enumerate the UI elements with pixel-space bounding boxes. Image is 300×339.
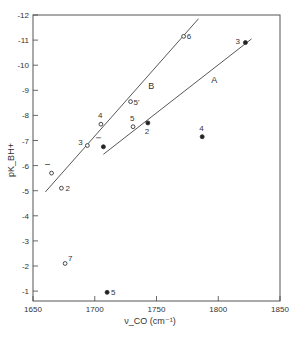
chart: 16501700175018001850-1-2-3-4-5-6-7-8-9-1… [0, 0, 300, 339]
regression-lines: BA [45, 19, 251, 192]
y-tick-label: -11 [18, 36, 30, 45]
x-axis-label: ν_CO (cm⁻¹) [124, 316, 176, 326]
open-point [182, 34, 186, 38]
filled-point [243, 41, 247, 45]
y-tick-label: -3 [22, 237, 30, 246]
open-point [50, 171, 54, 175]
filled-point [101, 145, 105, 149]
point-label: 3 [78, 138, 83, 147]
point-label: 4 [199, 124, 204, 133]
x-tick-label: 1750 [148, 305, 166, 314]
open-point [131, 125, 135, 129]
line-B [45, 19, 198, 192]
filled-point [146, 121, 150, 125]
point-label: 4 [98, 111, 103, 120]
x-tick-label: 1650 [24, 305, 42, 314]
filled-point [105, 290, 109, 294]
point-label: 6 [187, 32, 192, 41]
y-tick-label: -10 [17, 61, 29, 70]
y-tick-label: -12 [17, 11, 29, 20]
line-label-B: B [148, 81, 154, 91]
open-point [63, 262, 67, 266]
open-point [85, 144, 89, 148]
y-tick-label: -8 [22, 111, 30, 120]
point-label: 2 [145, 127, 150, 136]
open-point [129, 100, 133, 104]
point-label: 3 [235, 37, 240, 46]
open-point [60, 186, 64, 190]
point-label: 7 [68, 254, 73, 263]
y-tick-label: -9 [22, 86, 30, 95]
filled-point [200, 135, 204, 139]
x-tick-label: 1700 [86, 305, 104, 314]
line-label-A: A [211, 75, 217, 85]
axis-ticks: 16501700175018001850-1-2-3-4-5-6-7-8-9-1… [17, 11, 289, 314]
y-tick-label: -2 [22, 262, 30, 271]
y-axis-label: pK_BH+ [6, 143, 16, 177]
y-tick-label: -5 [22, 187, 30, 196]
open-point [99, 122, 103, 126]
point-label: 5 [130, 114, 135, 123]
y-tick-label: -4 [22, 212, 30, 221]
point-label: 5 [111, 288, 116, 297]
x-tick-label: 1800 [209, 305, 227, 314]
y-tick-label: -7 [22, 137, 30, 146]
point-label: 2 [65, 184, 70, 193]
x-tick-label: 1850 [271, 305, 289, 314]
y-tick-label: -6 [22, 162, 30, 171]
line-A [103, 39, 251, 154]
point-label: l [94, 137, 103, 139]
point-label: l [43, 163, 52, 165]
y-tick-label: -1 [22, 287, 30, 296]
data-points: l2345'567l2345 [43, 32, 248, 297]
point-label: 5' [134, 98, 140, 107]
